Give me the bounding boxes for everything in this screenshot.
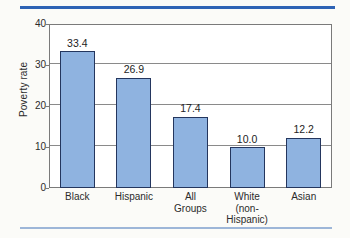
bar-all-groups[interactable]: [173, 117, 208, 188]
bar-slot: 26.9: [116, 24, 151, 188]
x-label-line: Asian: [275, 191, 332, 203]
x-label-asian: Asian: [275, 191, 332, 203]
y-tick-label-0: 0: [20, 183, 46, 193]
x-label-white-non-hispanic: White(non-Hispanic): [219, 191, 276, 226]
bar-value-label: 10.0: [216, 134, 279, 145]
x-label-hispanic: Hispanic: [106, 191, 163, 203]
x-label-all-groups: AllGroups: [162, 191, 219, 214]
x-label-black: Black: [49, 191, 106, 203]
y-tick-label-30: 30: [20, 60, 46, 70]
bottom-decorative-rule: [20, 227, 332, 229]
y-axis-label: Poverty rate: [18, 45, 29, 135]
x-label-line: White: [219, 191, 276, 203]
x-label-line: All: [162, 191, 219, 203]
bar-value-label: 17.4: [159, 103, 222, 114]
bars-layer: 33.426.917.410.012.2: [49, 24, 332, 188]
x-axis-category-labels: BlackHispanicAllGroupsWhite(non-Hispanic…: [49, 191, 332, 237]
x-label-line: Hispanic): [219, 214, 276, 226]
bar-black[interactable]: [60, 51, 95, 188]
bar-slot: 12.2: [286, 24, 321, 188]
y-tick-label-40: 40: [20, 19, 46, 29]
bar-slot: 10.0: [230, 24, 265, 188]
x-label-line: Black: [49, 191, 106, 203]
bar-asian[interactable]: [286, 138, 321, 188]
y-tick-label-10: 10: [20, 142, 46, 152]
bar-value-label: 12.2: [272, 124, 335, 135]
bar-white-non-hispanic[interactable]: [230, 147, 265, 188]
x-label-line: (non-: [219, 203, 276, 215]
bar-value-label: 26.9: [102, 64, 165, 75]
bar-hispanic[interactable]: [116, 78, 151, 188]
bar-slot: 33.4: [60, 24, 95, 188]
y-tick-mark-0: [45, 188, 49, 189]
x-label-line: Groups: [162, 203, 219, 215]
x-label-line: Hispanic: [106, 191, 163, 203]
bar-slot: 17.4: [173, 24, 208, 188]
poverty-rate-bar-chart: Poverty rate 010203040 33.426.917.410.01…: [0, 0, 350, 238]
bar-value-label: 33.4: [46, 38, 109, 49]
y-tick-label-20: 20: [20, 101, 46, 111]
